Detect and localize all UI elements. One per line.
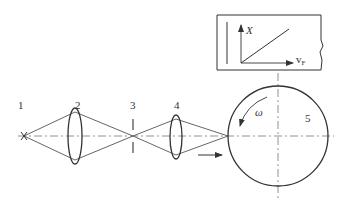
label-2: 2 xyxy=(75,99,81,111)
ray xyxy=(176,136,228,155)
ray xyxy=(24,136,75,160)
inset-y-label: X xyxy=(245,24,254,36)
ray xyxy=(176,119,228,136)
ray xyxy=(24,112,75,136)
label-3: 3 xyxy=(130,99,136,111)
label-4: 4 xyxy=(174,99,180,111)
lens-4 xyxy=(170,115,182,159)
ray xyxy=(75,112,133,136)
inset-x-label-sub: F xyxy=(302,59,306,67)
label-5: 5 xyxy=(305,112,311,124)
label-1: 1 xyxy=(18,99,24,111)
inset-x-label: vF xyxy=(296,53,306,67)
optical-setup-diagram: X vF 1 2 3 4 5 ω xyxy=(0,0,345,210)
ray xyxy=(75,136,133,160)
rotation-arrow-icon xyxy=(240,97,267,126)
inset-graph-box: X vF xyxy=(217,15,323,70)
omega-label: ω xyxy=(255,106,263,118)
